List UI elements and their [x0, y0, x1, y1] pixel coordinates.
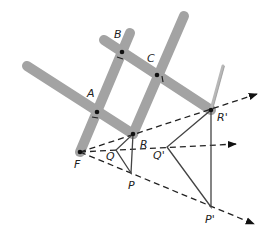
ray-to-r-prime [80, 94, 257, 152]
label-p-prime: P' [205, 213, 215, 226]
triangle-pqr-prime [167, 110, 211, 207]
pantograph-diagram: A B C F R Q P R' Q' P' [0, 0, 279, 242]
pivot-b [120, 50, 125, 55]
pen-icon [211, 66, 225, 110]
label-b: B [114, 28, 122, 41]
pivot-f [78, 150, 83, 155]
label-q-prime: Q' [153, 149, 165, 162]
pivot-a [95, 110, 100, 115]
label-a: A [86, 87, 95, 100]
label-r-prime: R' [217, 111, 228, 124]
label-p: P [128, 179, 135, 192]
pivot-c [155, 73, 160, 78]
label-r: R [140, 138, 148, 151]
label-q: Q [106, 150, 115, 163]
pivot-r-prime [209, 108, 214, 113]
label-c: C [147, 52, 155, 65]
pivot-r [131, 132, 136, 137]
label-f: F [74, 158, 81, 171]
